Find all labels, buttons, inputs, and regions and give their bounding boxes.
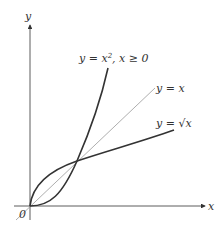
parabola-label: y = x2, x ≥ 0 <box>78 52 149 65</box>
sqrt-curve <box>30 130 174 206</box>
sqrt-label: y = √x <box>155 117 192 130</box>
x-axis-label: x <box>208 200 215 213</box>
origin-label: 0 <box>19 208 26 221</box>
y-axis-label: y <box>24 10 32 23</box>
identity-line <box>16 88 155 220</box>
parabola-curve <box>30 68 108 206</box>
function-graph: y x 0 y = x2, x ≥ 0 y = x y = √x <box>0 0 224 233</box>
identity-label: y = x <box>155 82 185 95</box>
